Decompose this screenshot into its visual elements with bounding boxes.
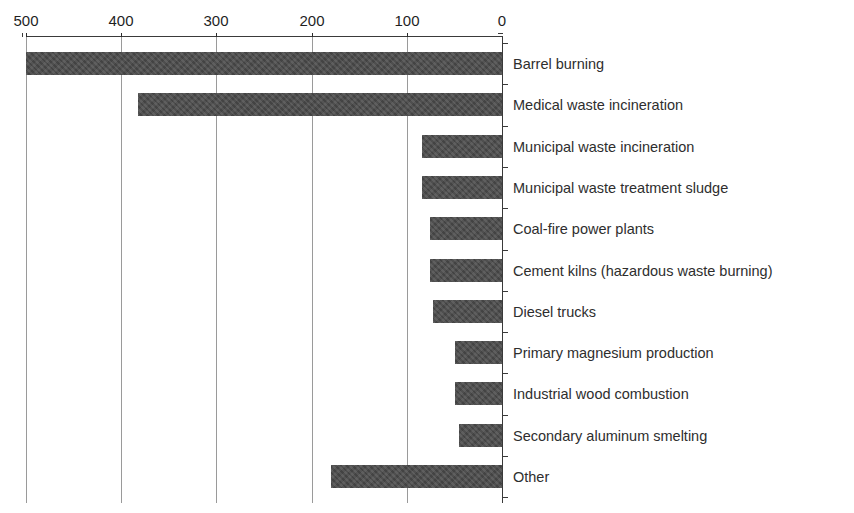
category-tick-10 <box>502 456 508 457</box>
bar-chart: 500 400 300 200 100 0 Barrel burningMedi… <box>0 0 854 513</box>
bar-coal-fire-power-plants <box>430 217 502 240</box>
category-label-6: Diesel trucks <box>513 304 596 320</box>
category-tick-9 <box>502 415 508 416</box>
bar-diesel-trucks <box>433 300 502 323</box>
category-tick-7 <box>502 332 508 333</box>
category-tick-4 <box>502 208 508 209</box>
category-label-7: Primary magnesium production <box>513 345 714 361</box>
bar-secondary-aluminum-smelting <box>459 424 502 447</box>
category-tick-2 <box>502 126 508 127</box>
category-label-4: Coal-fire power plants <box>513 221 654 237</box>
bar-municipal-waste-incineration <box>422 135 502 158</box>
category-label-9: Secondary aluminum smelting <box>513 428 707 444</box>
category-label-5: Cement kilns (hazardous waste burning) <box>513 263 773 279</box>
category-tick-1 <box>502 84 508 85</box>
category-tick-6 <box>502 291 508 292</box>
category-label-2: Municipal waste incineration <box>513 139 694 155</box>
category-label-8: Industrial wood combustion <box>513 386 689 402</box>
bar-cement-kilns-hazardous-waste-burning <box>430 259 502 282</box>
bar-primary-magnesium-production <box>455 341 502 364</box>
bar-barrel-burning <box>26 52 502 75</box>
category-label-10: Other <box>513 469 549 485</box>
category-tick-0 <box>502 43 508 44</box>
category-tick-end <box>502 497 508 498</box>
category-label-0: Barrel burning <box>513 56 604 72</box>
bar-municipal-waste-treatment-sludge <box>422 176 502 199</box>
bar-industrial-wood-combustion <box>455 382 502 405</box>
category-label-3: Municipal waste treatment sludge <box>513 180 728 196</box>
bar-medical-waste-incineration <box>138 93 502 116</box>
category-label-1: Medical waste incineration <box>513 97 683 113</box>
category-tick-5 <box>502 250 508 251</box>
bar-other <box>331 465 502 488</box>
category-tick-8 <box>502 373 508 374</box>
category-tick-3 <box>502 167 508 168</box>
bars-layer: Barrel burningMedical waste incineration… <box>0 0 854 513</box>
